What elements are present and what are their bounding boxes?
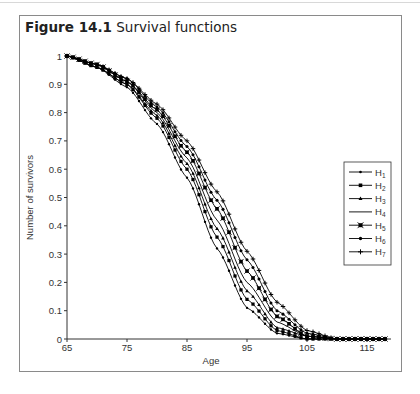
series-h1 [66,55,386,340]
y-tick-label: 0.2 [49,277,62,288]
series-h4 [67,56,385,339]
y-tick-label: 0.3 [49,249,62,260]
y-tick-label: 0.5 [49,192,62,203]
x-tick-label: 95 [242,342,253,353]
y-tick-label: 0.4 [49,220,62,231]
y-tick-label: 0.8 [49,107,62,118]
legend: H1H2H3H4H5H6H7 [344,162,391,265]
y-tick-label: 0.7 [49,135,62,146]
series-h7 [65,54,388,342]
x-tick-label: 85 [182,342,193,353]
x-tick-label: 65 [62,342,73,353]
series-h5 [64,53,387,341]
series-h3 [65,54,387,340]
x-tick-label: 105 [299,342,315,353]
series-h6 [65,54,386,340]
x-tick-label: 75 [122,342,133,353]
x-axis-title: Age [203,355,220,366]
x-tick-label: 115 [359,342,374,353]
y-tick-label: 0.9 [49,79,62,90]
y-tick-label: 1 [57,51,62,62]
series-h2 [65,54,386,340]
survival-chart: 00.10.20.30.40.50.60.70.80.9165758595105… [0,0,420,394]
y-axis-title: Number of survivors [24,155,35,240]
y-tick-label: 0.6 [49,164,62,175]
y-tick-label: 0.1 [49,305,62,316]
